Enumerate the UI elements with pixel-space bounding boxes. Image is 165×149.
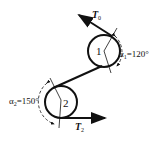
belt-pulley-diagram: 1 2 T0 T2 α1=120° α2=150° (0, 0, 165, 149)
belt-span (53, 66, 102, 88)
force-t0-label: T0 (92, 9, 101, 21)
pulley-1-label: 1 (96, 45, 102, 57)
pulley-2-radial-line (59, 100, 61, 128)
angle-2-label: α2=150° (9, 96, 39, 107)
angle-1-label: α1=120° (119, 49, 149, 60)
force-t2-label: T2 (75, 121, 84, 133)
pulley-2-label: 2 (63, 97, 69, 109)
pulley-1-radial-line (104, 51, 111, 73)
